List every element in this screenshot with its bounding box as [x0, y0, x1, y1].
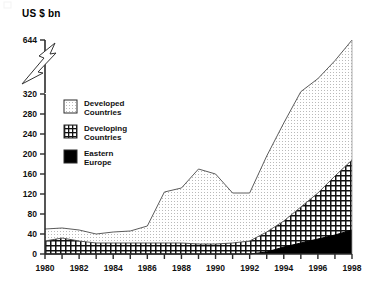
legend-label-line1: Developed [84, 99, 125, 108]
legend-swatch-grid-hatch [64, 125, 77, 138]
x-tick-label: 1998 [343, 263, 362, 273]
y-tick-label: 240 [23, 129, 37, 139]
x-tick-label: 1994 [274, 263, 293, 273]
x-tick-label: 1980 [36, 263, 55, 273]
x-tick-label: 1996 [308, 263, 327, 273]
x-tick-label: 1992 [240, 263, 259, 273]
x-tick-label: 1984 [104, 263, 123, 273]
x-tick-label: 1988 [172, 263, 191, 273]
y-tick-label: 40 [28, 229, 38, 239]
legend-swatch-light-dotted [64, 100, 77, 113]
chart-container: US $ bn 04080120160200240280320644198019… [0, 0, 371, 282]
legend-swatch-solid-black [64, 150, 77, 163]
y-tick-label: 200 [23, 149, 37, 159]
x-tick-label: 1986 [138, 263, 157, 273]
x-tick-label: 1982 [70, 263, 89, 273]
legend-label-line1: Developing [84, 124, 127, 133]
y-tick-label: 120 [23, 189, 37, 199]
y-tick-label: 80 [28, 209, 38, 219]
legend-label-line1: Eastern [84, 149, 113, 158]
y-tick-label: 160 [23, 169, 37, 179]
y-axis-title: US $ bn [22, 8, 61, 19]
legend-label-line2: Countries [84, 133, 122, 142]
y-tick-label: 644 [23, 35, 37, 45]
legend-label-line2: Countries [84, 108, 122, 117]
x-tick-label: 1990 [206, 263, 225, 273]
stacked-area-chart: US $ bn 04080120160200240280320644198019… [0, 0, 371, 282]
y-tick-label: 0 [32, 249, 37, 259]
legend-label-line2: Europe [84, 158, 112, 167]
y-tick-label: 320 [23, 89, 37, 99]
y-tick-label: 280 [23, 109, 37, 119]
